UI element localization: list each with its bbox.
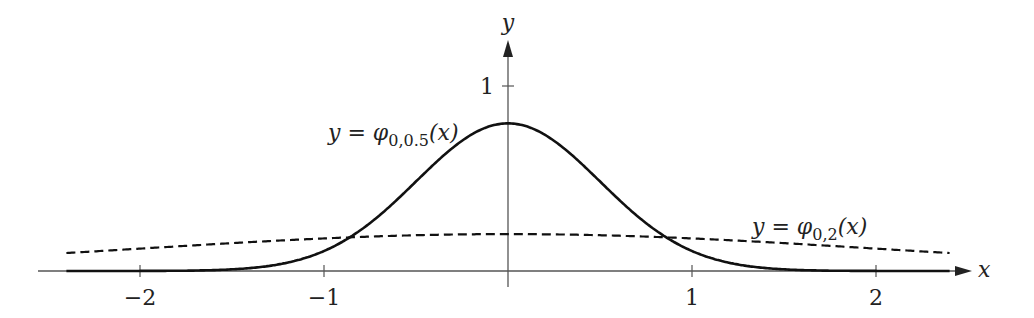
labels: y = φ0,0.5(x)y = φ0,2(x) bbox=[327, 120, 867, 244]
x-axis-arrow-icon bbox=[955, 266, 972, 276]
y-axis-arrow-icon bbox=[503, 40, 513, 57]
gaussian-chart: −2−1121xy y = φ0,0.5(x)y = φ0,2(x) bbox=[0, 0, 1034, 318]
series-label: y = φ0,0.5(x) bbox=[327, 120, 459, 150]
x-axis-label: x bbox=[978, 257, 991, 282]
x-tick-label: 2 bbox=[869, 285, 883, 310]
y-axis-label: y bbox=[501, 10, 515, 35]
series-label: y = φ0,2(x) bbox=[751, 214, 867, 244]
y-tick-label: 1 bbox=[480, 74, 494, 99]
x-tick-label: −1 bbox=[308, 285, 340, 310]
x-tick-label: −2 bbox=[124, 285, 156, 310]
x-tick-label: 1 bbox=[685, 285, 699, 310]
axes: −2−1121xy bbox=[38, 10, 991, 310]
